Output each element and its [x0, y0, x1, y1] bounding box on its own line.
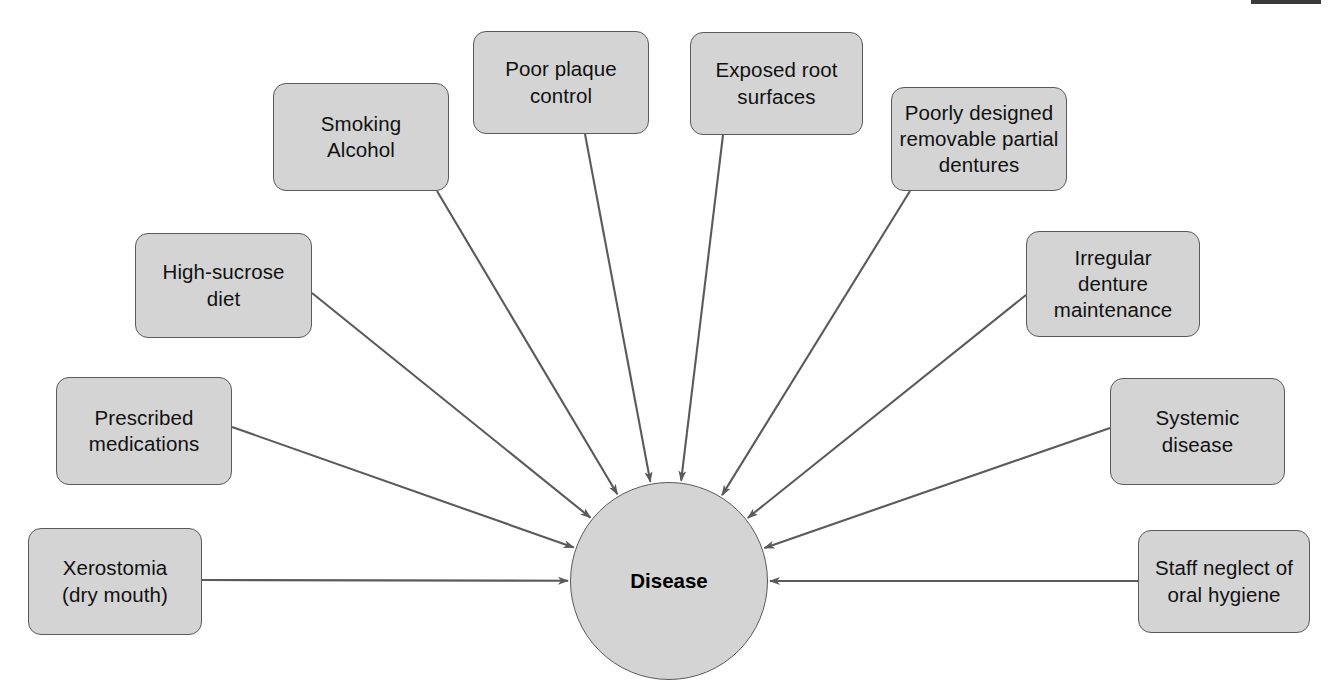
node-systemic-disease[interactable]: Systemic disease	[1110, 378, 1285, 485]
node-poorly-designed-removable-partial-dentures[interactable]: Poorly designed removable partial dentur…	[891, 87, 1067, 191]
node-poor-plaque-control[interactable]: Poor plaque control	[473, 31, 649, 134]
node-smoking-alcohol[interactable]: Smoking Alcohol	[273, 83, 449, 191]
edge-smoking-alcohol-to-disease	[437, 191, 617, 494]
center-node-disease[interactable]: Disease	[570, 482, 768, 680]
node-xerostomia[interactable]: Xerostomia (dry mouth)	[28, 528, 202, 635]
edge-poor-plaque-control-to-disease	[585, 134, 650, 482]
node-staff-neglect-of-oral-hygiene[interactable]: Staff neglect of oral hygiene	[1138, 530, 1310, 633]
edge-xerostomia-to-disease	[202, 580, 568, 581]
edge-systemic-disease-to-disease	[764, 428, 1110, 548]
edge-prescribed-medications-to-disease	[232, 427, 574, 547]
edge-poorly-designed-removable-partial-dentures-to-disease	[722, 191, 910, 495]
center-node-label: Disease	[630, 569, 708, 593]
node-high-sucrose-diet[interactable]: High-sucrose diet	[135, 233, 312, 338]
edge-irregular-denture-maintenance-to-disease	[748, 295, 1026, 518]
node-irregular-denture-maintenance[interactable]: Irregular denture maintenance	[1026, 231, 1200, 337]
node-exposed-root-surfaces[interactable]: Exposed root surfaces	[690, 32, 863, 135]
edge-exposed-root-surfaces-to-disease	[681, 135, 723, 481]
node-prescribed-medications[interactable]: Prescribed medications	[56, 377, 232, 485]
edge-high-sucrose-diet-to-disease	[312, 293, 590, 518]
diagram-canvas: Smoking Alcohol Poor plaque control Expo…	[0, 0, 1333, 698]
